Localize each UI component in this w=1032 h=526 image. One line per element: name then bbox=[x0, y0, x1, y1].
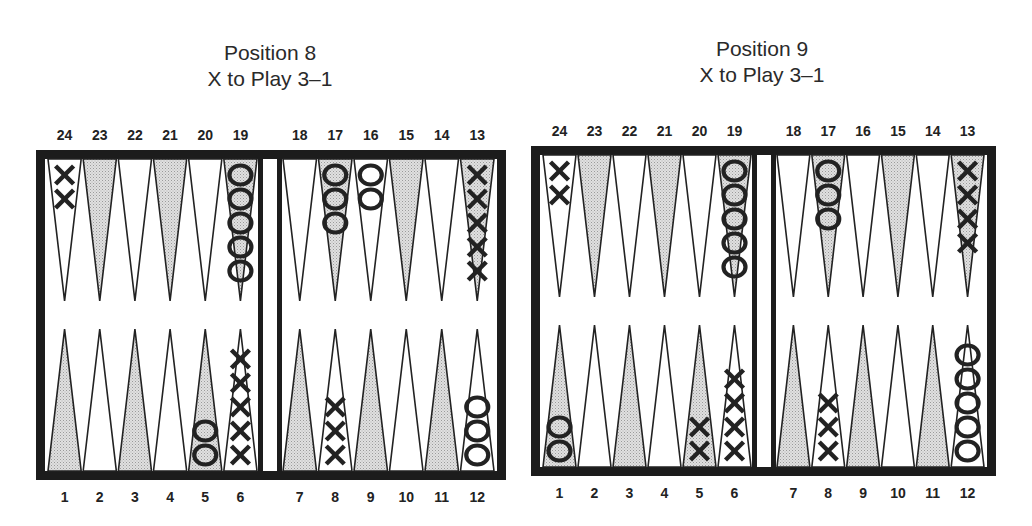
point-label-16: 16 bbox=[855, 123, 871, 139]
point-label-2: 2 bbox=[591, 485, 599, 501]
point-label-23: 23 bbox=[92, 127, 108, 143]
point-label-23: 23 bbox=[587, 123, 603, 139]
point-label-13: 13 bbox=[469, 127, 485, 143]
point-label-7: 7 bbox=[790, 485, 798, 501]
point-label-21: 21 bbox=[162, 127, 178, 143]
bar-left-edge bbox=[752, 155, 757, 467]
point-label-8: 8 bbox=[331, 489, 339, 505]
point-label-12: 12 bbox=[960, 485, 976, 501]
point-label-4: 4 bbox=[661, 485, 669, 501]
point-label-19: 19 bbox=[233, 127, 249, 143]
point-label-1: 1 bbox=[556, 485, 564, 501]
point-label-10: 10 bbox=[890, 485, 906, 501]
point-label-20: 20 bbox=[692, 123, 708, 139]
point-label-9: 9 bbox=[367, 489, 375, 505]
point-label-16: 16 bbox=[363, 127, 379, 143]
point-label-20: 20 bbox=[197, 127, 213, 143]
point-label-7: 7 bbox=[296, 489, 304, 505]
point-label-11: 11 bbox=[434, 489, 449, 505]
point-label-3: 3 bbox=[626, 485, 634, 501]
backgammon-diagrams: 242322212019181716151413123456789101112 … bbox=[0, 0, 1032, 526]
point-label-12: 12 bbox=[469, 489, 485, 505]
point-label-4: 4 bbox=[166, 489, 174, 505]
bar-left-edge bbox=[258, 159, 263, 471]
point-label-5: 5 bbox=[696, 485, 704, 501]
point-label-5: 5 bbox=[201, 489, 209, 505]
point-label-19: 19 bbox=[727, 123, 743, 139]
point-label-15: 15 bbox=[890, 123, 906, 139]
bar-right-edge bbox=[771, 155, 776, 467]
point-label-10: 10 bbox=[398, 489, 414, 505]
board-position-8: 242322212019181716151413123456789101112 bbox=[36, 127, 506, 505]
point-label-17: 17 bbox=[820, 123, 836, 139]
point-label-3: 3 bbox=[131, 489, 139, 505]
board-surface bbox=[45, 159, 497, 471]
point-label-14: 14 bbox=[925, 123, 941, 139]
point-label-17: 17 bbox=[327, 127, 343, 143]
point-label-18: 18 bbox=[292, 127, 308, 143]
bar-right-edge bbox=[277, 159, 282, 471]
point-label-6: 6 bbox=[237, 489, 245, 505]
point-label-18: 18 bbox=[786, 123, 802, 139]
point-label-24: 24 bbox=[57, 127, 73, 143]
point-label-2: 2 bbox=[96, 489, 104, 505]
board-surface bbox=[540, 155, 987, 467]
point-label-6: 6 bbox=[731, 485, 739, 501]
point-label-13: 13 bbox=[960, 123, 976, 139]
point-label-21: 21 bbox=[657, 123, 673, 139]
point-label-22: 22 bbox=[127, 127, 143, 143]
point-label-24: 24 bbox=[552, 123, 568, 139]
board-position-9: 242322212019181716151413123456789101112 bbox=[531, 123, 996, 501]
point-label-8: 8 bbox=[824, 485, 832, 501]
point-label-22: 22 bbox=[622, 123, 638, 139]
point-label-1: 1 bbox=[61, 489, 69, 505]
point-label-15: 15 bbox=[398, 127, 414, 143]
point-label-11: 11 bbox=[925, 485, 940, 501]
point-label-9: 9 bbox=[859, 485, 867, 501]
point-label-14: 14 bbox=[434, 127, 450, 143]
